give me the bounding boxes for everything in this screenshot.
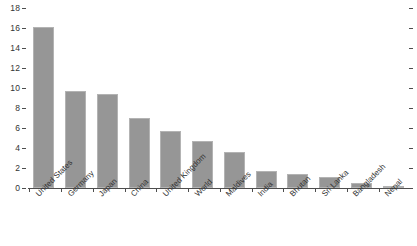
bar[interactable] <box>33 27 54 188</box>
y-tick-mark <box>22 88 26 89</box>
x-axis-baseline <box>28 188 409 189</box>
y-tick-label: 2 <box>15 162 20 174</box>
right-axis-ticks <box>409 0 417 246</box>
bar-series <box>28 8 409 188</box>
y-tick-mark <box>22 68 26 69</box>
y-tick-mark <box>22 48 26 49</box>
x-tick-mark <box>61 189 62 192</box>
x-tick-mark <box>220 189 221 192</box>
y-tick: 12 <box>10 62 28 74</box>
x-tick-mark <box>252 189 253 192</box>
bar[interactable] <box>97 94 118 188</box>
y-tick-label: 14 <box>10 42 20 54</box>
right-tick-mark <box>409 148 413 149</box>
right-tick-mark <box>409 88 413 89</box>
y-tick: 18 <box>10 2 28 14</box>
right-tick-mark <box>409 168 413 169</box>
right-tick-mark <box>409 128 413 129</box>
y-tick-label: 12 <box>10 62 20 74</box>
y-tick: 2 <box>15 162 28 174</box>
y-tick-label: 16 <box>10 22 20 34</box>
y-tick-mark <box>22 188 26 189</box>
y-tick: 6 <box>15 122 28 134</box>
y-tick-label: 0 <box>15 182 20 194</box>
y-tick: 14 <box>10 42 28 54</box>
y-tick: 4 <box>15 142 28 154</box>
right-tick-mark <box>409 188 413 189</box>
y-tick: 16 <box>10 22 28 34</box>
y-tick-mark <box>22 148 26 149</box>
x-tick-mark <box>125 189 126 192</box>
x-tick-mark <box>29 189 30 192</box>
bar[interactable] <box>129 118 150 188</box>
y-tick-mark <box>22 28 26 29</box>
right-tick-mark <box>409 28 413 29</box>
x-tick-mark <box>283 189 284 192</box>
y-tick-label: 6 <box>15 122 20 134</box>
x-tick-mark <box>156 189 157 192</box>
y-tick-label: 8 <box>15 102 20 114</box>
y-tick-mark <box>22 128 26 129</box>
y-tick-mark <box>22 108 26 109</box>
y-tick-label: 4 <box>15 142 20 154</box>
x-tick-mark <box>347 189 348 192</box>
right-tick-mark <box>409 48 413 49</box>
right-tick-mark <box>409 8 413 9</box>
y-tick-label: 10 <box>10 82 20 94</box>
right-tick-mark <box>409 108 413 109</box>
y-tick: 10 <box>10 82 28 94</box>
y-tick-label: 18 <box>10 2 20 14</box>
x-tick-mark <box>379 189 380 192</box>
right-tick-mark <box>409 68 413 69</box>
y-tick-mark <box>22 8 26 9</box>
y-tick: 8 <box>15 102 28 114</box>
y-tick: 0 <box>15 182 28 194</box>
x-tick-mark <box>315 189 316 192</box>
y-tick-mark <box>22 168 26 169</box>
x-tick-mark <box>188 189 189 192</box>
y-axis: 024681012141618 <box>0 0 28 246</box>
bar-chart: 024681012141618 United StatesGermanyJapa… <box>0 0 417 246</box>
x-tick-mark <box>93 189 94 192</box>
